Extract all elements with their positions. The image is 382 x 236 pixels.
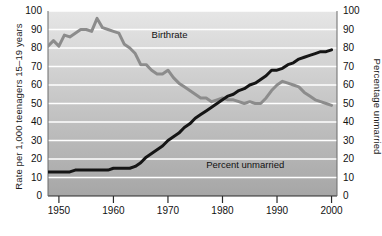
y-tick-label-right: 30 [343,135,369,146]
y-tick-label-right: 40 [343,116,369,127]
y-tick-label-right: 50 [343,98,369,109]
x-tick-label: 1950 [39,205,79,216]
y-tick-label-left: 80 [16,42,42,53]
y-tick-label-left: 90 [16,24,42,35]
plot-area [0,0,382,236]
x-tick-label: 1960 [93,205,133,216]
x-axis-tick-marks [59,196,332,203]
y-tick-label-right: 70 [343,61,369,72]
y-tick-label-right: 100 [343,5,369,16]
y-tick-label-left: 100 [16,5,42,16]
y-tick-label-left: 70 [16,61,42,72]
y-tick-label-right: 60 [343,79,369,90]
chart-figure: Rate per 1,000 teenagers 15–19 years Per… [0,0,382,236]
x-tick-label: 1980 [202,205,242,216]
y-tick-label-left: 30 [16,135,42,146]
y-tick-label-right: 80 [343,42,369,53]
x-tick-label: 1970 [148,205,188,216]
y-tick-label-left: 0 [16,190,42,201]
x-tick-label: 2000 [312,205,352,216]
y-tick-label-left: 40 [16,116,42,127]
y-tick-label-left: 10 [16,172,42,183]
y-tick-label-left: 20 [16,153,42,164]
y-tick-label-right: 10 [343,172,369,183]
annotation-birthrate: Birthrate [152,29,188,40]
y-tick-label-right: 20 [343,153,369,164]
y-tick-label-right: 90 [343,24,369,35]
x-tick-label: 1990 [257,205,297,216]
y-tick-label-left: 60 [16,79,42,90]
annotation-percent-unmarried: Percent unmarried [206,159,284,170]
y-tick-label-right: 0 [343,190,369,201]
y-tick-label-left: 50 [16,98,42,109]
